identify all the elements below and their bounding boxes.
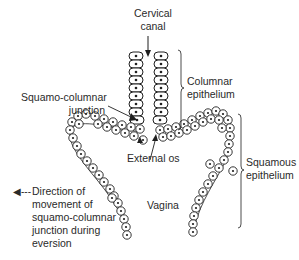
columnar-bracket (178, 50, 184, 130)
right-columnar-cells (153, 52, 168, 124)
cervical-canal-line-1: Cervical (134, 7, 172, 20)
squamous-epithelium-label: Squamous epithelium (246, 156, 296, 182)
legend-line-1: Direction of (32, 185, 116, 198)
squamous-line-1: Squamous (246, 156, 296, 169)
squamous-line-2: epithelium (246, 169, 296, 182)
cervical-canal-arrow (145, 36, 151, 57)
external-os-label: External os (127, 152, 180, 165)
left-columnar-cells (129, 52, 144, 124)
cervix-diagram: Cervical canal Columnar epithelium Squam… (0, 0, 299, 260)
legend-line-4: junction during (32, 224, 116, 237)
legend-line-3: squamo-columnar (32, 211, 116, 224)
squamo-columnar-junction-label: Squamo-columnar junction (21, 91, 105, 117)
cervical-canal-line-2: canal (134, 20, 172, 33)
legend-arrow-icon: ◀--- (13, 185, 31, 198)
junction-line-1: Squamo-columnar (21, 91, 105, 104)
junction-line-2: junction (21, 104, 105, 117)
columnar-line-2: epithelium (187, 88, 235, 101)
columnar-line-1: Columnar (187, 75, 235, 88)
squamous-bracket (238, 114, 244, 228)
right-squamous-cells (156, 107, 237, 236)
legend-line-5: eversion (32, 237, 116, 250)
legend-text: Direction of movement of squamo-columnar… (32, 185, 116, 250)
vagina-label: Vagina (147, 199, 179, 212)
legend-line-2: movement of (32, 198, 116, 211)
cervical-canal-label: Cervical canal (134, 7, 172, 33)
columnar-epithelium-label: Columnar epithelium (187, 75, 235, 101)
